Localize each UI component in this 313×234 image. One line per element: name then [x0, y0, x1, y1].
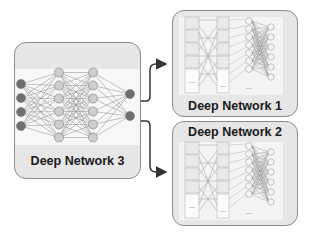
- arrow-to-network-1: [141, 64, 166, 101]
- neuron-node: [17, 94, 26, 103]
- svg-text:...: ...: [220, 206, 226, 213]
- neuron-node: [55, 94, 64, 103]
- svg-text:...: ...: [189, 202, 195, 209]
- neuron-node: [126, 90, 135, 99]
- neuron-node: [55, 133, 64, 142]
- neuron-node: [17, 122, 26, 131]
- neuron-node: [89, 94, 98, 103]
- neuron-node: [126, 112, 135, 121]
- svg-text:...: ...: [246, 208, 252, 215]
- neuron-node: [55, 81, 64, 90]
- deep-network-3-label: Deep Network 3: [15, 154, 140, 168]
- neuron-node: [89, 68, 98, 77]
- svg-text:...: ...: [246, 83, 252, 90]
- neuron-node: [89, 133, 98, 142]
- svg-text:...: ...: [220, 81, 226, 88]
- neuron-node: [55, 107, 64, 116]
- neuron-node: [89, 120, 98, 129]
- deep-network-2-box: Deep Network 2 .........: [172, 121, 298, 226]
- neuron-node: [55, 120, 64, 129]
- neuron-node: [17, 108, 26, 117]
- network-2-graph: .........: [173, 122, 298, 226]
- neuron-node: [89, 81, 98, 90]
- neuron-node: [55, 68, 64, 77]
- deep-network-3-box: Deep Network 3: [14, 42, 141, 179]
- arrow-to-network-2: [141, 121, 166, 172]
- deep-network-1-box: ......... Deep Network 1: [172, 10, 298, 117]
- neuron-node: [17, 80, 26, 89]
- svg-text:...: ...: [189, 77, 195, 84]
- neuron-node: [89, 107, 98, 116]
- deep-network-1-label: Deep Network 1: [173, 99, 297, 113]
